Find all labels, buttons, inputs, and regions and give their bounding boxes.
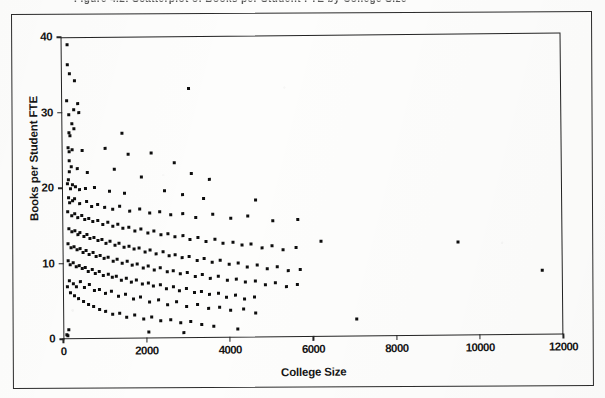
data-point [186, 271, 189, 274]
data-point [96, 239, 99, 242]
data-point [242, 307, 245, 310]
data-point [72, 127, 75, 130]
data-point [217, 275, 220, 278]
data-point [125, 260, 128, 263]
data-point [91, 251, 94, 254]
data-point [124, 293, 127, 296]
data-point [77, 111, 80, 114]
data-point [132, 248, 135, 251]
data-point [120, 132, 123, 135]
data-point [104, 241, 107, 244]
data-point [146, 231, 149, 234]
data-point [70, 122, 73, 125]
data-point [235, 277, 238, 280]
data-point [100, 238, 103, 241]
data-point [244, 281, 247, 284]
data-point [150, 151, 153, 154]
data-point [78, 247, 81, 250]
data-point [355, 318, 358, 321]
data-point [67, 196, 70, 199]
data-point [146, 281, 149, 284]
y-axis-tick-label: 0 [21, 332, 55, 344]
data-point [250, 242, 253, 245]
data-point [148, 300, 151, 303]
data-point [67, 146, 70, 149]
data-point [246, 265, 249, 268]
x-axis-tick [396, 335, 398, 340]
data-points-layer [61, 32, 564, 339]
data-point [65, 182, 68, 185]
data-point [173, 236, 176, 239]
data-point [103, 206, 106, 209]
data-point [77, 264, 80, 267]
data-point [67, 160, 70, 163]
data-point [179, 272, 182, 275]
data-point [205, 240, 208, 243]
data-point [104, 147, 107, 150]
data-point [255, 263, 258, 266]
data-point [92, 220, 95, 223]
data-point [75, 285, 78, 288]
data-point [66, 64, 69, 67]
data-point [73, 212, 76, 215]
data-point [150, 316, 153, 319]
data-point [193, 275, 196, 278]
data-point [118, 312, 121, 315]
scatter-plot: 010203040020004000600080001000012000 Boo… [0, 0, 605, 398]
data-point [200, 290, 203, 293]
data-point [207, 307, 210, 310]
data-point [185, 287, 188, 290]
data-point [67, 113, 70, 116]
data-point [218, 305, 221, 308]
data-point [104, 310, 107, 313]
data-point [90, 205, 93, 208]
data-point [213, 238, 216, 241]
data-point [127, 225, 130, 228]
data-point [72, 108, 75, 111]
data-point [211, 261, 214, 264]
data-point [140, 175, 143, 178]
data-point [122, 246, 125, 249]
data-point [69, 201, 72, 204]
data-point [130, 280, 133, 283]
data-point [276, 265, 279, 268]
x-axis-tick [563, 333, 565, 338]
data-point [201, 273, 204, 276]
data-point [211, 213, 214, 216]
data-point [263, 283, 266, 286]
x-axis-tick-label: 4000 [200, 343, 260, 356]
y-axis-tick-label: 10 [21, 257, 55, 269]
data-point [299, 268, 302, 271]
data-point [230, 217, 233, 220]
data-point [87, 217, 90, 220]
data-point [141, 266, 144, 269]
data-point [228, 263, 231, 266]
x-axis-tick [146, 337, 148, 342]
data-point [78, 188, 81, 191]
data-point [107, 256, 110, 259]
data-point [93, 236, 96, 239]
data-point [88, 283, 91, 286]
y-axis-tick-label: 40 [18, 30, 52, 42]
data-point [132, 298, 135, 301]
data-point [296, 283, 299, 286]
data-point [189, 172, 192, 175]
data-point [66, 335, 69, 338]
data-point [139, 295, 142, 298]
data-point [82, 300, 85, 303]
data-point [208, 178, 211, 181]
data-point [153, 268, 156, 271]
y-axis-tick [58, 188, 63, 190]
data-point [181, 257, 184, 260]
data-point [123, 191, 126, 194]
data-point [138, 207, 141, 210]
data-point [120, 262, 123, 265]
data-point [79, 231, 82, 234]
data-point [99, 254, 102, 257]
data-point [147, 330, 150, 333]
data-point [265, 267, 268, 270]
data-point [163, 190, 166, 193]
data-point [90, 268, 93, 271]
data-point [225, 295, 228, 298]
data-point [72, 245, 75, 248]
